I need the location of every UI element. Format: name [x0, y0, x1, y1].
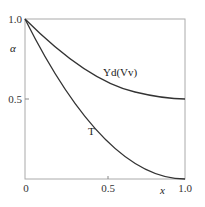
curve-yd-vv: [25, 19, 185, 99]
y-tick-label-top: 1.0: [8, 13, 22, 25]
y-tick-label-mid: 0.5: [8, 93, 22, 105]
x-tick-label-mid: 0.5: [101, 182, 115, 194]
plot-frame: [25, 19, 185, 179]
chart: 1.0 0.5 α 0 0.5 1.0 x Yd(Vv) T: [0, 0, 205, 207]
curve-t: [25, 19, 185, 179]
curve-label-yd-vv: Yd(Vv): [103, 66, 138, 79]
y-axis-label: α: [10, 42, 16, 54]
x-tick-label-0: 0: [23, 182, 29, 194]
x-axis-label: x: [159, 184, 165, 196]
x-tick-label-end: 1.0: [178, 182, 192, 194]
curve-label-t: T: [88, 125, 95, 137]
